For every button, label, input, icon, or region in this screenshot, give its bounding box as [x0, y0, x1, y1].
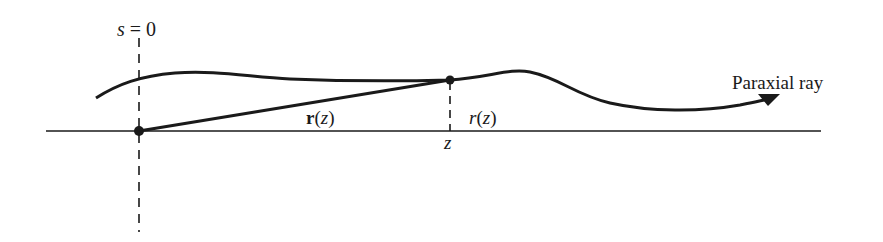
s-equals-zero-label: s = 0 [117, 19, 156, 39]
position-vector-label: r(z) [306, 108, 335, 127]
paraxial-ray-label: Paraxial ray [732, 73, 823, 92]
z-axis-tick-label: z [444, 133, 451, 152]
position-vector-line [139, 80, 450, 131]
paren-close: ) [490, 107, 496, 128]
paren-close: ) [328, 107, 334, 128]
radial-distance-label: r(z) [469, 108, 496, 127]
s-variable: s [117, 18, 125, 40]
ray-point [446, 76, 455, 85]
s-equals-zero: = 0 [125, 18, 156, 40]
paraxial-ray-curve [96, 71, 772, 110]
origin-point [134, 126, 144, 136]
